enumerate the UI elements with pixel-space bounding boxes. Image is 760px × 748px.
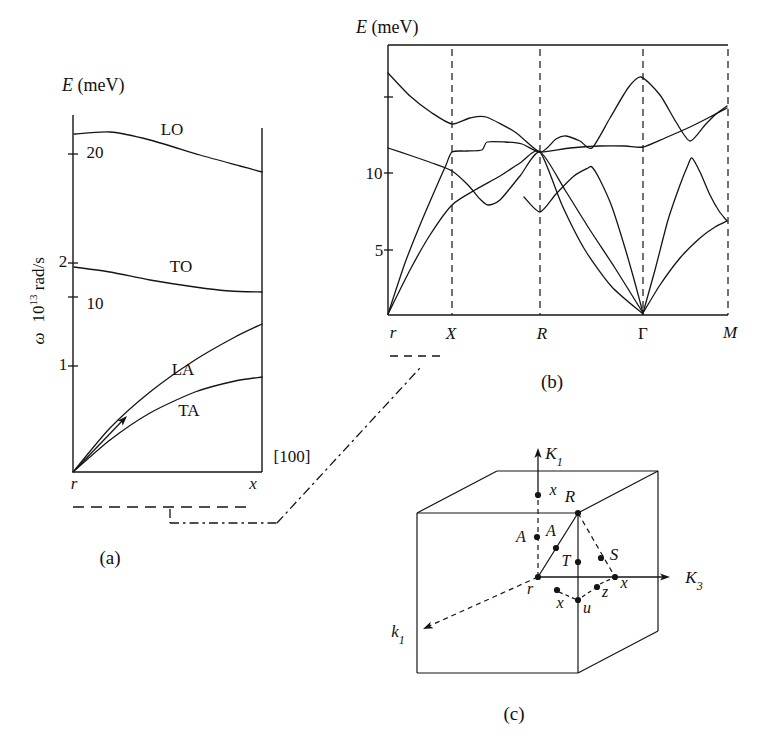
- curve-b-B2: [388, 148, 643, 313]
- omega-unit: rad/s: [29, 257, 48, 294]
- c-label-k1: k1: [391, 622, 405, 647]
- panel-b-x-label-r: r: [390, 323, 397, 343]
- curve-a-TA: [73, 377, 262, 472]
- c-label-S: S: [610, 545, 619, 564]
- branch-label-lo: LO: [161, 120, 184, 140]
- panel-b-tick-label-5: 5: [375, 241, 384, 261]
- curve-b-B5: [524, 166, 643, 313]
- panel-a-tick-label-2: 2: [59, 252, 68, 272]
- panel-b-tick-label-10: 10: [366, 164, 383, 184]
- curve-b-B1: [388, 73, 727, 152]
- panel-a-omega-axis-label: ω1013 rad/s: [27, 216, 49, 386]
- c-point-x-front: [554, 587, 560, 593]
- curve-b-B3: [388, 108, 727, 314]
- c-point-x-top: [535, 492, 541, 498]
- direction-label-100: [100]: [274, 447, 311, 467]
- panel-b-x-label-Gamma: Γ: [638, 324, 648, 344]
- c-label-r: r: [527, 580, 534, 597]
- zoom-dashdot-diag: [277, 368, 420, 523]
- c-diag-tr: [578, 471, 658, 513]
- c-label-x-top: x: [548, 481, 556, 498]
- c-stub-2: [582, 589, 594, 597]
- branch-label-to: TO: [170, 257, 192, 277]
- c-point-R: [575, 510, 581, 516]
- c-label-K1: K1: [544, 444, 562, 469]
- curve-a-LA: [73, 324, 262, 472]
- c-k1-dashed: [427, 577, 538, 627]
- c-point-A1: [534, 534, 540, 540]
- caption-c: (c): [503, 703, 524, 725]
- c-point-r: [535, 574, 541, 580]
- c-label-R: R: [564, 487, 576, 506]
- c-diag-tl: [417, 471, 497, 513]
- figure-page: K1K3k1xRAATSxrxuz E (meV) ω1013 rad/s 20…: [0, 0, 760, 748]
- panel-a-title: E (meV): [62, 75, 124, 96]
- panel-a-title-var: E: [62, 75, 73, 95]
- panel-a-tick-label-10: 10: [87, 294, 104, 314]
- c-label-x-front: x: [555, 594, 563, 611]
- curve-b-B6: [643, 158, 727, 313]
- c-label-K3: K3: [684, 568, 702, 593]
- c-label-u: u: [583, 599, 591, 616]
- c-point-z: [594, 584, 600, 590]
- c-diag-br: [578, 631, 658, 673]
- panel-b-title-unit: (meV): [367, 17, 418, 37]
- c-point-T: [575, 559, 581, 565]
- omega-exp: 13: [27, 294, 39, 305]
- omega-symbol: ω: [29, 332, 48, 344]
- panel-a-tick-label-1: 1: [59, 355, 68, 375]
- curve-b-B4: [388, 151, 643, 314]
- c-label-A1: A: [515, 528, 526, 545]
- branch-label-ta: TA: [178, 401, 199, 421]
- c-label-x-right: x: [619, 574, 627, 591]
- c-point-A2: [553, 545, 559, 551]
- panel-a-title-unit: (meV): [73, 75, 124, 95]
- panel-b-title-var: E: [356, 17, 367, 37]
- a-arrow-shaft: [76, 419, 124, 469]
- c-r-R-line: [538, 513, 578, 577]
- panel-b-x-label-X: X: [446, 324, 456, 344]
- c-point-u: [575, 597, 581, 603]
- figure-svg: K1K3k1xRAATSxrxuz: [0, 0, 760, 748]
- omega-base: 10: [29, 305, 48, 322]
- panel-a-tick-label-20: 20: [87, 143, 104, 163]
- c-label-z: z: [601, 583, 609, 600]
- c-label-A2: A: [545, 522, 556, 539]
- branch-label-la: LA: [172, 360, 195, 380]
- panel-a-x-start-label: r: [71, 474, 78, 494]
- panel-a-x-end-label: x: [249, 474, 257, 494]
- panel-b-title: E (meV): [356, 17, 418, 38]
- curve-a-TO: [74, 267, 262, 292]
- c-point-S: [598, 555, 604, 561]
- caption-b: (b): [541, 371, 563, 393]
- panel-b-x-label-M: M: [723, 323, 737, 343]
- panel-b-x-label-R: R: [537, 324, 547, 344]
- c-label-T: T: [562, 552, 572, 569]
- caption-a: (a): [99, 547, 120, 569]
- c-k1-arrowhead: [422, 622, 434, 633]
- c-point-x-right: [612, 574, 618, 580]
